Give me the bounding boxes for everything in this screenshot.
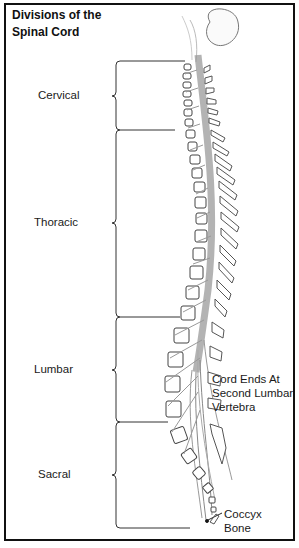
annotation-cord-end-line-1: Cord Ends At — [212, 372, 293, 386]
label-lumbar: Lumbar — [34, 363, 73, 375]
annotation-coccyx-line-1: Coccyx — [224, 507, 262, 521]
coccyx-pointer — [206, 513, 223, 524]
label-sacral: Sacral — [38, 468, 71, 480]
annotation-cord-end: Cord Ends At Second Lumbar Vertebra — [212, 372, 293, 414]
annotation-cord-end-line-3: Vertebra — [212, 400, 293, 414]
division-brackets — [112, 61, 190, 528]
annotation-coccyx: Coccyx Bone — [224, 507, 262, 535]
spine-illustration — [0, 0, 299, 548]
annotation-cord-end-line-2: Second Lumbar — [212, 386, 293, 400]
label-thoracic: Thoracic — [34, 216, 78, 228]
annotation-coccyx-line-2: Bone — [224, 521, 262, 535]
skull-icon — [182, 9, 239, 62]
label-cervical: Cervical — [38, 89, 80, 101]
